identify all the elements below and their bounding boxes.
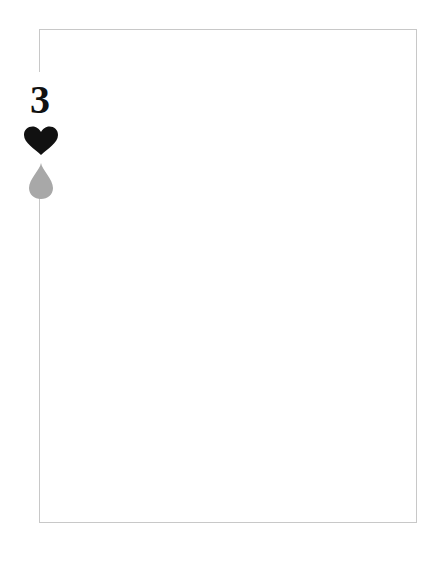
heart-icon [23,126,59,156]
drop-icon [28,162,54,200]
card-rank: 3 [22,80,58,120]
card-frame [39,29,417,523]
